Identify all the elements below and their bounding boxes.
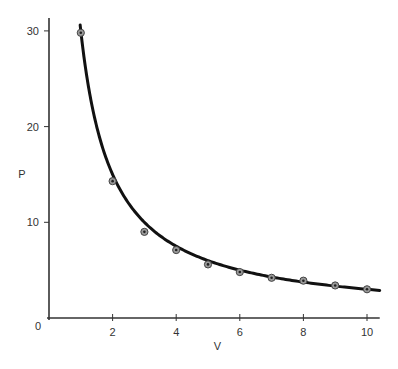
y-axis-label: P [18,168,25,180]
x-axis-label: V [214,340,222,352]
fit-curve-path [80,25,380,290]
data-point-center [80,32,83,35]
data-point-center [239,271,242,274]
x-tick-label: 8 [300,326,306,338]
y-tick-label: 20 [27,121,39,133]
axes [44,18,380,321]
y-tick-label: 30 [27,25,39,37]
x-tick-label: 6 [237,326,243,338]
data-point-center [270,277,273,280]
x-tick-label: 10 [361,326,373,338]
data-point-center [207,263,210,266]
data-point-center [334,284,337,287]
y-tick-label: 10 [27,216,39,228]
data-point-center [302,279,305,282]
x-tick-label: 2 [110,326,116,338]
data-point-center [111,180,114,183]
labels: 2468101020300VP [18,25,373,352]
chart: 2468101020300VP [0,0,398,369]
data-point-center [175,249,178,252]
data-point-center [366,288,369,291]
x-tick-label: 4 [173,326,179,338]
origin-label: 0 [35,320,41,332]
data-point-center [143,231,146,234]
data-points [77,29,370,293]
fit-curve [80,25,380,290]
